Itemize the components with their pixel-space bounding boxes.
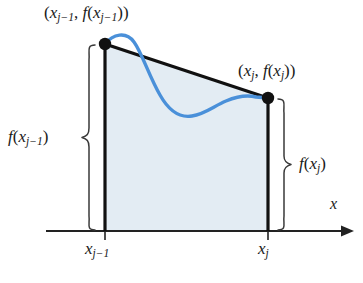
left-endpoint-dot	[99, 38, 111, 50]
label-axis-x: x	[330, 196, 337, 212]
label-tick-x-j: xj	[258, 240, 269, 260]
x-axis-arrowhead	[341, 226, 354, 237]
right-point-close-parens: ))	[284, 61, 295, 80]
label-right-point: (xj, f(xj))	[238, 62, 295, 82]
label-left-height: f(xj−1)	[8, 128, 48, 148]
top-point-inner-x-subscript: j−1	[100, 11, 117, 24]
top-point-comma: ,	[74, 3, 83, 22]
label-right-height: f(xj)	[299, 155, 326, 175]
top-point-x-subscript: j−1	[57, 11, 74, 24]
left-height-brace	[82, 45, 95, 230]
left-height-x-subscript: j−1	[26, 135, 43, 148]
right-height-close-paren: )	[320, 154, 326, 173]
top-point-close-parens: ))	[117, 3, 128, 22]
label-top-left-point: (xj−1, f(xj−1))	[44, 4, 129, 24]
tick-right-subscript: j	[266, 247, 269, 260]
tick-left-subscript: j−1	[93, 247, 110, 260]
right-point-inner-x: x	[273, 61, 281, 80]
right-height-brace	[278, 99, 291, 230]
right-height-x: x	[309, 154, 317, 173]
right-endpoint-dot	[262, 92, 274, 104]
figure-canvas	[0, 0, 363, 283]
label-tick-x-j-minus-1: xj−1	[85, 240, 109, 260]
left-height-x: x	[18, 127, 26, 146]
right-point-comma: ,	[254, 61, 263, 80]
tick-left-x: x	[85, 239, 93, 258]
trapezoid-rule-figure: (xj−1, f(xj−1)) (xj, f(xj)) f(xj−1) f(xj…	[0, 0, 363, 283]
left-height-close-paren: )	[43, 127, 49, 146]
tick-right-x: x	[258, 239, 266, 258]
